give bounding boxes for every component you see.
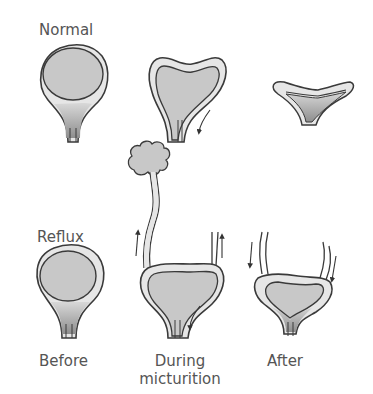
column-label-during-line2: micturition	[130, 370, 230, 388]
reflux-after-bladder	[250, 232, 336, 336]
column-label-before: Before	[39, 352, 88, 370]
vesicoureteral-reflux-diagram	[0, 0, 373, 394]
column-label-during-line1: During	[130, 352, 230, 370]
column-label-after: After	[267, 352, 303, 370]
row-label-reflux: Reflux	[37, 228, 84, 246]
reflux-up-arrow-left	[136, 232, 138, 256]
reflux-during-bladder	[128, 141, 223, 338]
normal-after-bladder	[273, 82, 353, 125]
column-label-during: During micturition	[130, 352, 230, 388]
row-label-normal: Normal	[39, 21, 93, 39]
reflux-before-bladder	[37, 245, 104, 338]
normal-before-bladder	[41, 45, 108, 142]
normal-during-bladder	[149, 58, 226, 142]
